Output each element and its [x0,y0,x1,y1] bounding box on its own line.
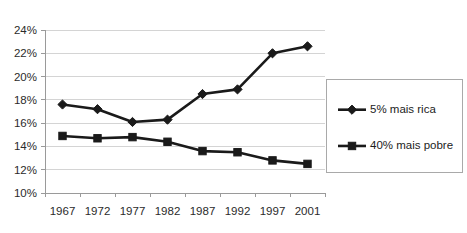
x-axis-labels: 19671972197719821987199219972001 [50,205,321,217]
data-series [58,42,312,168]
x-axis-tick-label: 1977 [120,205,146,217]
y-axis-tick-label: 22% [14,47,37,59]
data-point-marker [304,160,311,167]
legend-marker-icon [348,142,355,149]
y-axis-tick-label: 20% [14,71,37,83]
line-chart: 24%22%20%18%16%14%12%10% 196719721977198… [0,0,467,233]
data-point-marker [234,149,241,156]
data-point-marker [58,100,67,109]
x-axis-tick-label: 1992 [225,205,251,217]
y-axis-tick-label: 18% [14,94,37,106]
data-point-marker [128,117,137,126]
x-axis-tick-label: 1987 [190,205,216,217]
gridlines [45,30,325,193]
data-point-marker [269,157,276,164]
y-axis-tick-label: 24% [14,24,37,36]
x-axis-tick-label: 1982 [155,205,181,217]
y-axis-tick-label: 12% [14,164,37,176]
data-point-marker [129,133,136,140]
y-axis-tick-label: 10% [14,187,37,199]
data-point-marker [93,105,102,114]
data-point-marker [94,135,101,142]
data-point-marker [303,42,312,51]
legend-label: 5% mais rica [370,103,436,115]
chart-container: 24%22%20%18%16%14%12%10% 196719721977198… [0,0,467,233]
legend-label: 40% mais pobre [370,139,453,151]
chart-legend: 5% mais rica40% mais pobre [327,80,463,173]
x-axis-tick-label: 2001 [295,205,321,217]
x-axis-tick-label: 1997 [260,205,286,217]
axis-lines [45,30,325,193]
legend-box [327,80,463,173]
series-1 [58,42,312,127]
axis-ticks [41,30,325,197]
series-2 [59,132,311,167]
x-axis-tick-label: 1967 [50,205,76,217]
data-point-marker [59,132,66,139]
y-axis-labels: 24%22%20%18%16%14%12%10% [14,24,37,199]
x-axis-tick-label: 1972 [85,205,111,217]
data-point-marker [199,147,206,154]
data-point-marker [164,138,171,145]
y-axis-tick-label: 16% [14,117,37,129]
y-axis-tick-label: 14% [14,140,37,152]
